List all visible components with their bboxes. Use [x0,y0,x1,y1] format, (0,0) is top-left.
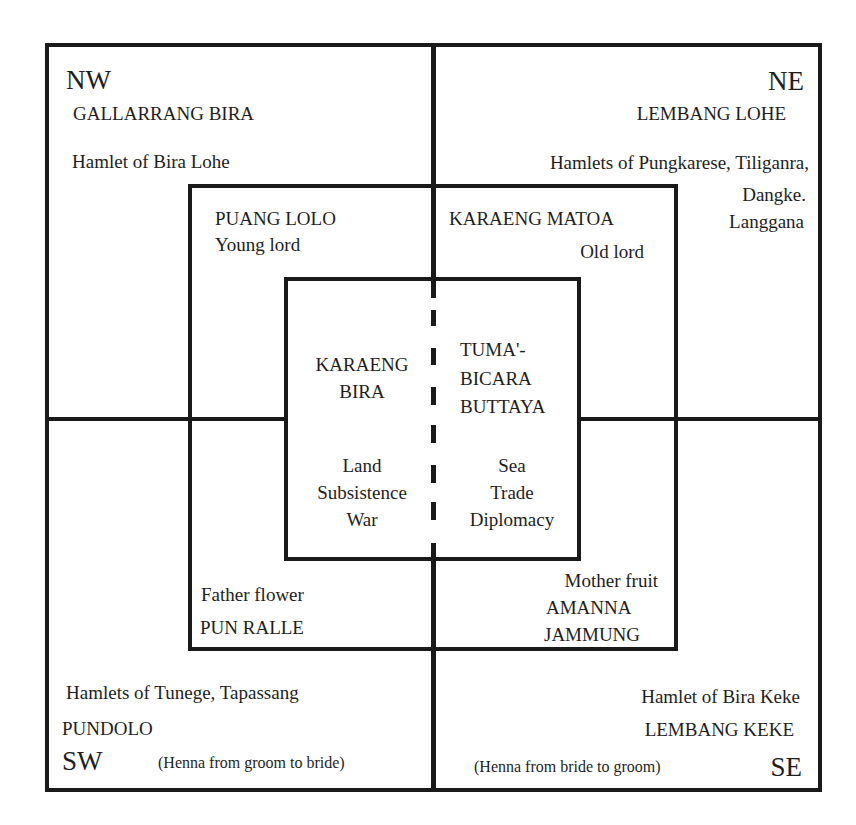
ne-title: LEMBANG LOHE [637,103,786,125]
ne-subtitle-line1: Hamlets of Pungkarese, Tiliganra, [550,152,809,174]
dashed-divider-segment [431,279,436,298]
center-right-attr-sea: Sea [450,455,574,477]
direction-label-se: SE [770,752,802,782]
direction-label-ne: NE [768,66,804,96]
nw-title: GALLARRANG BIRA [73,103,254,125]
amanna-jammung-line2: JAMMUNG [544,624,640,646]
se-subtitle: Hamlet of Bira Keke [641,686,800,708]
dashed-divider-segment [431,465,436,483]
pun-ralle-title: PUN RALLE [200,617,304,639]
direction-label-nw: NW [66,65,111,95]
center-left-attr-subsistence: Subsistence [300,482,424,504]
center-right-attr-diplomacy: Diplomacy [450,509,574,531]
se-henna-note: (Henna from bride to groom) [474,757,661,777]
center-right-attr-trade: Trade [450,482,574,504]
karaeng-bira-line2: BIRA [300,381,424,403]
amanna-jammung-line1: AMANNA [546,597,632,619]
dashed-divider-segment [431,543,436,560]
sw-title: PUNDOLO [62,718,153,740]
sw-subtitle: Hamlets of Tunege, Tapassang [66,682,299,704]
tuma-bicara-line2: BICARA [460,368,532,390]
direction-label-sw: SW [62,746,103,776]
nw-subtitle: Hamlet of Bira Lohe [72,151,230,173]
pun-ralle-subtitle: Father flower [201,584,304,606]
puang-lolo-subtitle: Young lord [215,234,300,256]
karaeng-bira-line1: KARAENG [300,354,424,376]
center-left-attr-land: Land [300,455,424,477]
center-left-attr-war: War [300,509,424,531]
dashed-divider-segment [431,348,436,365]
dashed-divider-segment [431,502,436,520]
ne-subtitle-line2: Dangke. [742,184,806,206]
sw-henna-note: (Henna from groom to bride) [158,753,345,773]
amanna-jammung-subtitle: Mother fruit [565,570,658,592]
se-title: LEMBANG KEKE [645,719,794,741]
dashed-divider-segment [431,310,436,326]
ne-subtitle-line3: Langgana [729,211,804,233]
karaeng-matoa-title: KARAENG MATOA [449,208,614,230]
dashed-divider-segment [431,387,436,405]
tuma-bicara-line3: BUTTAYA [460,396,545,418]
dashed-divider-segment [431,425,436,443]
tuma-bicara-line1: TUMA'- [460,339,526,361]
karaeng-matoa-subtitle: Old lord [580,241,644,263]
puang-lolo-title: PUANG LOLO [215,208,336,230]
